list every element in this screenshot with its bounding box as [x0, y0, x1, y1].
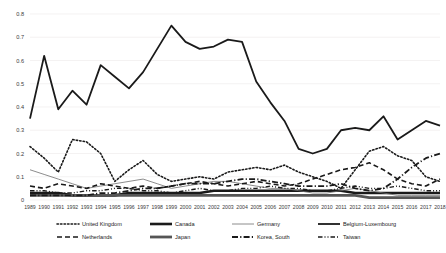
x-tick-label: 2015 — [392, 204, 404, 210]
x-tick-label: 1999 — [166, 204, 178, 210]
y-tick-label: 0.5 — [16, 81, 24, 87]
y-tick-label: 0.2 — [16, 151, 24, 157]
x-tick-label: 1993 — [81, 204, 93, 210]
x-tick-label: 2010 — [321, 204, 333, 210]
x-tick-label: 2004 — [236, 204, 248, 210]
y-tick-label: 0.6 — [16, 58, 24, 64]
x-tick-label: 2006 — [265, 204, 277, 210]
chart-background — [0, 0, 446, 253]
legend-label-japan[interactable]: Japan — [175, 234, 190, 240]
x-tick-label: 1998 — [151, 204, 163, 210]
x-tick-label: 1991 — [53, 204, 65, 210]
x-tick-label: 1995 — [109, 204, 121, 210]
x-tick-label: 2016 — [406, 204, 418, 210]
x-tick-label: 1997 — [137, 204, 149, 210]
x-tick-label: 2008 — [293, 204, 305, 210]
x-tick-label: 2012 — [349, 204, 361, 210]
y-tick-label: 0 — [21, 197, 24, 203]
x-tick-label: 1994 — [95, 204, 107, 210]
legend-label-united-kingdom[interactable]: United Kingdom — [82, 221, 122, 227]
y-tick-label: 0.1 — [16, 174, 24, 180]
x-tick-label: 1989 — [24, 204, 36, 210]
y-tick-label: 0.8 — [16, 11, 24, 17]
legend-label-netherlands[interactable]: Netherlands — [82, 234, 112, 240]
chart-container: 00.10.20.30.40.50.60.70.8 19891990199119… — [0, 0, 446, 253]
x-tick-label: 1990 — [38, 204, 50, 210]
y-tick-label: 0.7 — [16, 34, 24, 40]
legend-label-korea-south[interactable]: Korea, South — [257, 234, 290, 240]
legend-label-belgium-luxembourg[interactable]: Belgium-Luxembourg — [343, 221, 396, 227]
x-tick-label: 2007 — [279, 204, 291, 210]
legend-label-germany[interactable]: Germany — [257, 221, 280, 227]
line-chart: 00.10.20.30.40.50.60.70.8 19891990199119… — [0, 0, 446, 253]
x-tick-label: 1992 — [67, 204, 79, 210]
x-tick-label: 2017 — [420, 204, 432, 210]
legend-label-taiwan[interactable]: Taiwan — [343, 234, 360, 240]
x-tick-label: 2002 — [208, 204, 220, 210]
x-tick-label: 2013 — [364, 204, 376, 210]
legend-label-canada[interactable]: Canada — [175, 221, 195, 227]
x-tick-label: 1996 — [123, 204, 135, 210]
x-tick-label: 2005 — [250, 204, 262, 210]
x-tick-label: 2018 — [434, 204, 446, 210]
x-tick-label: 2009 — [307, 204, 319, 210]
y-tick-label: 0.4 — [16, 104, 24, 110]
y-tick-label: 0.3 — [16, 127, 24, 133]
x-tick-label: 2011 — [335, 204, 346, 210]
x-tick-label: 2001 — [194, 204, 206, 210]
x-tick-label: 2000 — [180, 204, 192, 210]
y-axis-labels: 00.10.20.30.40.50.60.70.8 — [16, 11, 24, 203]
x-tick-label: 2014 — [378, 204, 390, 210]
x-tick-label: 2003 — [222, 204, 234, 210]
